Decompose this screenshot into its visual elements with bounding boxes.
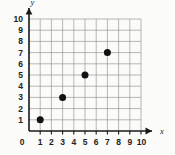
y-tick-label-1: 1 [18, 115, 23, 125]
data-point [82, 72, 89, 79]
y-tick-label-7: 7 [18, 48, 23, 58]
x-tick-label-9: 9 [127, 137, 132, 147]
x-tick-label-2: 2 [49, 137, 54, 147]
x-axis-tick-labels: 0 1 2 3 4 5 6 7 8 9 10 [20, 137, 147, 147]
scatter-plot-svg: 0 1 2 3 4 5 6 7 8 9 10 1 2 3 4 5 6 7 8 9… [0, 0, 175, 155]
y-tick-label-10: 10 [14, 14, 24, 24]
x-tick-label-5: 5 [83, 137, 88, 147]
x-axis-label: x [159, 126, 164, 136]
data-point [104, 49, 111, 56]
x-tick-label-6: 6 [94, 137, 99, 147]
y-tick-label-6: 6 [18, 59, 23, 69]
y-tick-label-3: 3 [18, 92, 23, 102]
data-point [59, 94, 66, 101]
data-point [37, 116, 44, 123]
x-tick-label-3: 3 [60, 137, 65, 147]
x-tick-label-10: 10 [137, 137, 147, 147]
x-tick-label-1: 1 [38, 137, 43, 147]
y-tick-label-4: 4 [18, 81, 23, 91]
x-tick-label-0: 0 [20, 137, 25, 147]
y-tick-label-2: 2 [18, 104, 23, 114]
x-tick-label-4: 4 [71, 137, 76, 147]
x-tick-label-7: 7 [105, 137, 110, 147]
y-tick-label-9: 9 [18, 25, 23, 35]
y-tick-label-5: 5 [18, 70, 23, 80]
y-axis-label: y [30, 0, 35, 7]
y-tick-label-8: 8 [18, 36, 23, 46]
x-tick-label-8: 8 [116, 137, 121, 147]
coordinate-plane-figure: 0 1 2 3 4 5 6 7 8 9 10 1 2 3 4 5 6 7 8 9… [0, 0, 175, 155]
